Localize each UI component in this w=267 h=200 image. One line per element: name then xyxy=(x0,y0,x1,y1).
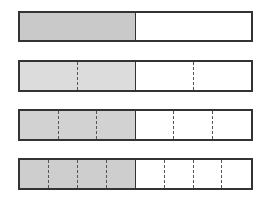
fraction-bar-2-of-4 xyxy=(18,60,253,92)
part-divider xyxy=(164,160,165,188)
part-divider xyxy=(193,160,194,188)
part-divider xyxy=(77,160,78,188)
fraction-bar-1-of-2 xyxy=(18,11,253,42)
part-divider xyxy=(173,111,174,139)
part-divider xyxy=(193,62,194,90)
part-divider xyxy=(58,111,59,139)
shaded-region xyxy=(20,111,136,139)
part-divider xyxy=(221,160,222,188)
fraction-bar-4-of-8 xyxy=(18,158,253,190)
shaded-region xyxy=(20,13,136,40)
half-divider xyxy=(135,111,136,139)
part-divider xyxy=(48,160,49,188)
part-divider xyxy=(106,160,107,188)
part-divider xyxy=(77,62,78,90)
part-divider xyxy=(96,111,97,139)
half-divider xyxy=(135,13,136,40)
fraction-bar-3-of-6 xyxy=(18,109,253,141)
part-divider xyxy=(212,111,213,139)
half-divider xyxy=(135,62,136,90)
half-divider xyxy=(135,160,136,188)
